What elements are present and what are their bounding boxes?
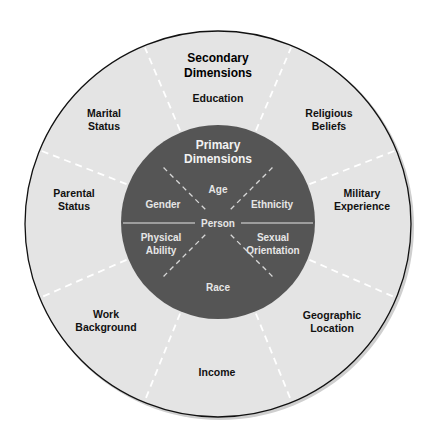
primary-dimension-label: Orientation [246, 245, 299, 256]
center-label-person: Person [201, 218, 235, 229]
secondary-dimension-label: Experience [334, 200, 390, 212]
secondary-dimension-label: Location [310, 322, 354, 334]
secondary-dimension-label: Religious [305, 107, 352, 119]
secondary-dimension-label: Military [344, 187, 381, 199]
secondary-dimension-label: Beliefs [312, 120, 347, 132]
primary-dimension-label: Ability [146, 245, 177, 256]
primary-dimension-label: Physical [141, 232, 182, 243]
secondary-dimension-label: Geographic [303, 309, 362, 321]
primary-title-line-2: Dimensions [184, 152, 252, 166]
primary-dimension-label: Gender [145, 199, 180, 210]
primary-dimension-label: Race [206, 282, 230, 293]
secondary-dimension-label: Parental [53, 187, 95, 199]
secondary-dimension-label: Marital [87, 107, 121, 119]
secondary-dimension-label: Work [93, 308, 119, 320]
secondary-title-line-1: Secondary [187, 51, 249, 65]
primary-title-line-1: Primary [196, 138, 241, 152]
secondary-dimension-label: Education [193, 92, 244, 104]
secondary-dimension-label: Income [199, 366, 236, 378]
secondary-title-line-2: Dimensions [184, 66, 252, 80]
secondary-dimension-label: Status [58, 200, 90, 212]
secondary-dimension-label: Status [88, 120, 120, 132]
secondary-dimension-label: Background [75, 321, 136, 333]
primary-dimension-label: Age [209, 184, 228, 195]
diversity-wheel-diagram: Secondary Dimensions Primary Dimensions … [0, 0, 437, 438]
primary-dimension-label: Ethnicity [251, 199, 294, 210]
primary-dimension-label: Sexual [257, 232, 289, 243]
